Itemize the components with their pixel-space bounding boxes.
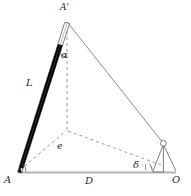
label-angle-alpha: α	[61, 50, 68, 60]
theodolite-head-icon	[161, 140, 167, 146]
label-baseline-d: D	[85, 176, 93, 186]
label-point-o: O	[172, 175, 180, 185]
label-point-a: A	[4, 175, 11, 185]
angle-arc-delta	[150, 164, 153, 171]
tripod-leg-left	[153, 146, 163, 172]
label-rod-length-l: L	[26, 78, 33, 88]
label-angle-delta: δ	[133, 160, 139, 170]
label-offset-e: e	[57, 142, 62, 151]
tripod-leg-right	[164, 146, 176, 171]
geometry-figure	[0, 0, 191, 196]
theodolite-tripod	[153, 140, 177, 172]
label-point-a-prime: A'	[60, 3, 69, 12]
diagram-canvas: A A' O D L e α δ	[0, 0, 191, 196]
dashed-offset-e-to-o	[68, 131, 161, 165]
sight-line-aprime-to-o	[68, 23, 164, 144]
